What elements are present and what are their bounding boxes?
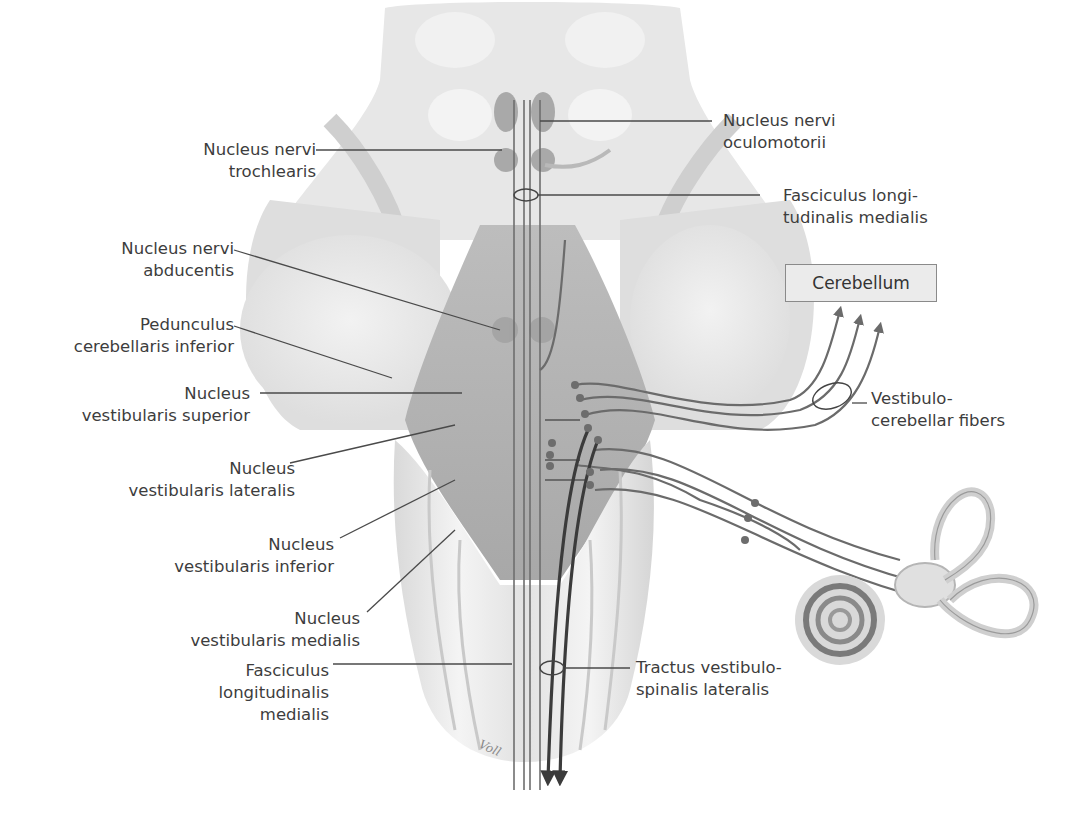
label-nucleus-nervi-oculomotorii: Nucleus nervi oculomotorii bbox=[723, 110, 836, 154]
cochlea bbox=[795, 575, 885, 665]
cerebellum-box: Cerebellum bbox=[785, 264, 937, 302]
label-nucleus-vestibularis-inferior: Nucleus vestibularis inferior bbox=[174, 534, 334, 578]
inner-ear bbox=[795, 492, 1034, 665]
label-pedunculus-cerebellaris-inferior: Pedunculus cerebellaris inferior bbox=[74, 314, 234, 358]
label-nucleus-vestibularis-lateralis: Nucleus vestibularis lateralis bbox=[129, 458, 295, 502]
label-nucleus-nervi-abducentis: Nucleus nervi abducentis bbox=[121, 238, 234, 282]
label-vestibulo-cerebellar-fibers: Vestibulo- cerebellar fibers bbox=[871, 388, 1005, 432]
label-tractus-vestibulospinalis-lateralis: Tractus vestibulo- spinalis lateralis bbox=[636, 657, 782, 701]
label-fasciculus-longitudinalis-medialis-top: Fasciculus longi- tudinalis medialis bbox=[783, 185, 928, 229]
label-nucleus-vestibularis-superior: Nucleus vestibularis superior bbox=[82, 383, 250, 427]
label-nucleus-nervi-trochlearis: Nucleus nervi trochlearis bbox=[203, 139, 316, 183]
cerebellar-ring bbox=[809, 378, 855, 414]
label-fasciculus-longitudinalis-medialis-bottom: Fasciculus longitudinalis medialis bbox=[218, 660, 329, 726]
label-nucleus-vestibularis-medialis: Nucleus vestibularis medialis bbox=[190, 608, 360, 652]
